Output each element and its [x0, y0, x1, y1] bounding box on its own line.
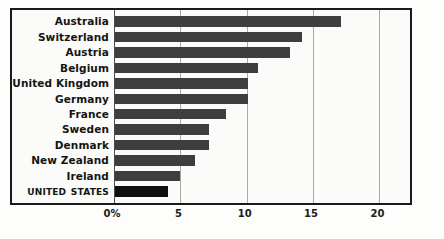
category-label-united-kingdom: United Kingdom — [12, 78, 109, 89]
bar-australia — [115, 16, 341, 26]
x-tick-label-20: 20 — [370, 208, 384, 219]
bar-row: Australia — [114, 16, 410, 26]
bar-row: New Zealand — [114, 155, 410, 165]
bar-ireland — [115, 171, 180, 181]
x-tick-label-5: 5 — [175, 208, 182, 219]
category-label-united-states: United States — [27, 185, 109, 198]
category-label-ireland: Ireland — [66, 171, 109, 182]
bar-united-kingdom — [115, 78, 248, 88]
bar-germany — [115, 94, 248, 104]
x-tick-label-10: 10 — [238, 208, 252, 219]
bar-new-zealand — [115, 155, 195, 165]
bar-france — [115, 109, 226, 119]
chart-figure: AustraliaSwitzerlandAustriaBelgiumUnited… — [0, 0, 444, 239]
x-tick-label-15: 15 — [304, 208, 318, 219]
bar-row: United Kingdom — [114, 78, 410, 88]
bar-united-states — [115, 186, 168, 196]
bar-row: Ireland — [114, 171, 410, 181]
bar-row: Denmark — [114, 140, 410, 150]
bar-sweden — [115, 124, 209, 134]
bar-belgium — [115, 63, 258, 73]
category-label-denmark: Denmark — [55, 140, 109, 151]
x-tick-label-0: 0% — [104, 208, 121, 219]
bar-row: Germany — [114, 94, 410, 104]
bar-row: Switzerland — [114, 32, 410, 42]
plot-frame: AustraliaSwitzerlandAustriaBelgiumUnited… — [10, 8, 412, 205]
bar-row: United States — [114, 186, 410, 196]
plot-area: AustraliaSwitzerlandAustriaBelgiumUnited… — [114, 10, 410, 203]
bar-row: Austria — [114, 47, 410, 57]
bar-row: France — [114, 109, 410, 119]
category-label-australia: Australia — [55, 16, 109, 27]
x-axis: 0%5101520 — [10, 206, 412, 226]
category-label-germany: Germany — [55, 94, 109, 105]
category-label-belgium: Belgium — [60, 63, 109, 74]
category-label-france: France — [69, 109, 109, 120]
bar-rows: AustraliaSwitzerlandAustriaBelgiumUnited… — [114, 10, 410, 203]
bar-austria — [115, 47, 290, 57]
bar-switzerland — [115, 32, 302, 42]
category-label-new-zealand: New Zealand — [31, 155, 109, 166]
category-label-austria: Austria — [66, 47, 109, 58]
bar-denmark — [115, 140, 209, 150]
category-label-sweden: Sweden — [62, 124, 109, 135]
bar-row: Sweden — [114, 124, 410, 134]
category-label-switzerland: Switzerland — [38, 32, 109, 43]
bar-row: Belgium — [114, 63, 410, 73]
